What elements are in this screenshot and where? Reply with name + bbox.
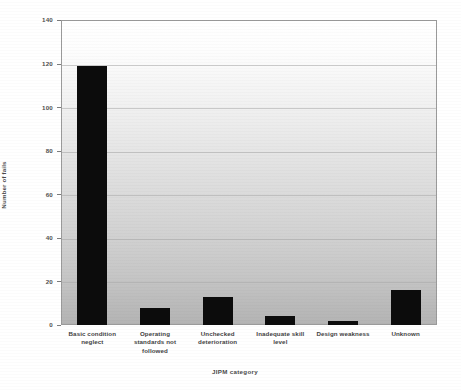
x-axis-title: JIPM category [170, 368, 300, 375]
x-axis-tick-label: Operatingstandards notfollowed [120, 330, 191, 355]
y-axis-tick-mark [57, 238, 61, 239]
y-axis-tick-mark [57, 151, 61, 152]
y-axis-tick-label: 80 [13, 147, 53, 154]
x-axis-tick-label-line: followed [120, 347, 191, 355]
gridline [62, 282, 436, 283]
y-axis-tick-label: 60 [13, 191, 53, 198]
x-axis-tick-label: Uncheckeddeterioration [182, 330, 253, 347]
y-axis-tick-label: 120 [13, 60, 53, 67]
y-axis-tick-mark [57, 64, 61, 65]
gridline [62, 65, 436, 66]
y-axis-tick-label: 0 [13, 321, 53, 328]
x-axis-tick-label-line: Basic condition [57, 330, 128, 338]
y-axis-tick-label: 140 [13, 16, 53, 23]
y-axis-tick-mark [57, 281, 61, 282]
y-axis-tick-mark [57, 20, 61, 21]
y-axis-tick-mark [57, 107, 61, 108]
x-axis-tick-label: Design weakness [308, 330, 379, 338]
bar [203, 297, 233, 325]
x-axis-tick-label-line: Inadequate skill [245, 330, 316, 338]
x-axis-tick-label: Inadequate skilllevel [245, 330, 316, 347]
x-axis-tick-label-line: Operating [120, 330, 191, 338]
x-axis-tick-label: Basic conditionneglect [57, 330, 128, 347]
gridline [62, 195, 436, 196]
y-axis-tick-label: 100 [13, 104, 53, 111]
x-axis-tick-label-line: Unknown [370, 330, 441, 338]
y-axis-tick-label: 20 [13, 278, 53, 285]
plot-area [61, 20, 437, 325]
x-axis-tick-label-line: deterioration [182, 338, 253, 346]
y-axis-tick-mark [57, 325, 61, 326]
bar [140, 308, 170, 325]
x-axis-tick-label-line: standards not [120, 338, 191, 346]
bar [265, 316, 295, 325]
bar [328, 321, 358, 325]
bar [391, 290, 421, 325]
x-axis-tick-label-line: Unchecked [182, 330, 253, 338]
bar [77, 66, 107, 325]
x-axis-tick-label-line: Design weakness [308, 330, 379, 338]
x-axis-tick-label: Unknown [370, 330, 441, 338]
gridline [62, 108, 436, 109]
bar-chart-figure: Number of fails 020406080100120140 Basic… [0, 0, 461, 390]
x-axis-tick-label-line: level [245, 338, 316, 346]
gridline [62, 239, 436, 240]
gridline [62, 152, 436, 153]
x-axis-tick-label-line: neglect [57, 338, 128, 346]
y-axis-tick-label: 40 [13, 234, 53, 241]
y-axis-title: Number of fails [0, 120, 7, 250]
y-axis-tick-mark [57, 194, 61, 195]
